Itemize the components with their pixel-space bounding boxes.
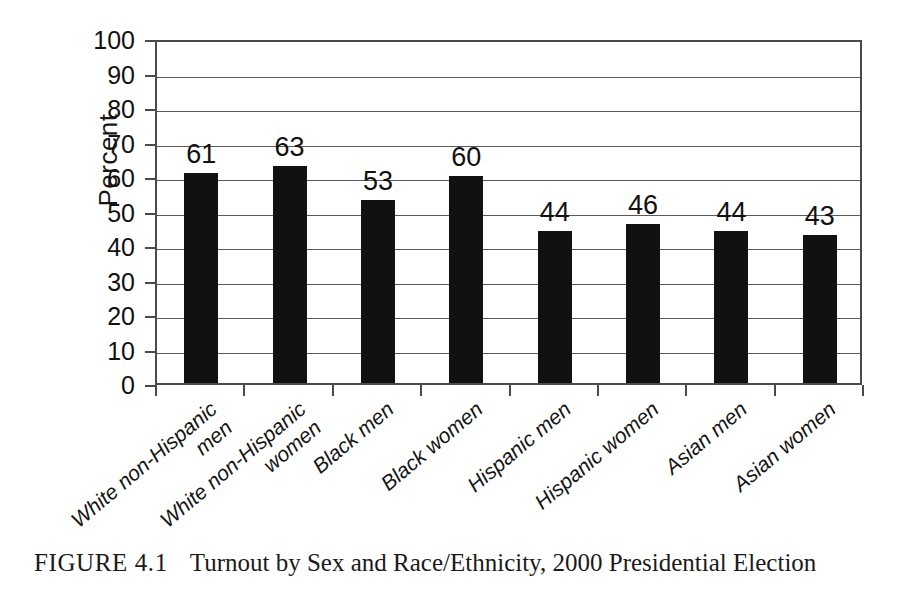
y-tick-mark [145, 385, 155, 387]
bar [184, 173, 218, 383]
bar-group: 44 [687, 42, 775, 383]
caption-text: Turnout by Sex and Race/Ethnicity, 2000 … [190, 549, 817, 576]
x-tick-mark [597, 385, 599, 396]
y-tick-label: 50 [75, 200, 135, 225]
y-tick-mark [145, 247, 155, 249]
y-tick-mark [145, 282, 155, 284]
bar-group: 63 [245, 42, 333, 383]
bar [626, 224, 660, 383]
y-tick-mark [145, 316, 155, 318]
y-tick-label: 10 [75, 338, 135, 363]
y-tick-mark [145, 213, 155, 215]
x-tick-mark [685, 385, 687, 396]
y-tick-mark [145, 351, 155, 353]
x-tick-mark [332, 385, 334, 396]
y-tick-mark [145, 75, 155, 77]
y-tick-label: 90 [75, 62, 135, 87]
bar [361, 200, 395, 383]
y-tick-label: 70 [75, 131, 135, 156]
bar-value-label: 44 [716, 199, 746, 226]
bar-value-label: 43 [805, 203, 835, 230]
x-axis-label: Asian men [661, 397, 753, 479]
bar-group: 44 [511, 42, 599, 383]
bar-group: 46 [599, 42, 687, 383]
bar-value-label: 53 [363, 168, 393, 195]
x-axis-label-line: Asian men [661, 397, 752, 478]
y-tick-label: 40 [75, 235, 135, 260]
bar [273, 166, 307, 383]
bar-value-label: 60 [451, 144, 481, 171]
x-tick-mark [420, 385, 422, 396]
bar-value-label: 44 [540, 199, 570, 226]
y-tick-label: 20 [75, 304, 135, 329]
bar-value-label: 63 [275, 134, 305, 161]
bar-group: 60 [422, 42, 510, 383]
bar [803, 235, 837, 383]
bar [714, 231, 748, 383]
figure-caption: FIGURE 4.1Turnout by Sex and Race/Ethnic… [34, 549, 874, 577]
y-tick-label: 30 [75, 269, 135, 294]
y-tick-mark [145, 109, 155, 111]
bar [449, 176, 483, 383]
y-tick-label: 0 [75, 373, 135, 398]
x-tick-mark [509, 385, 511, 396]
plot-area: 6163536044464443 [155, 40, 862, 385]
bar-group: 61 [157, 42, 245, 383]
caption-label: FIGURE 4.1 [34, 549, 168, 576]
x-tick-mark [243, 385, 245, 396]
y-tick-label: 100 [75, 28, 135, 53]
y-tick-label: 80 [75, 97, 135, 122]
x-tick-mark [774, 385, 776, 396]
bar-group: 43 [776, 42, 864, 383]
bar-value-label: 46 [628, 192, 658, 219]
bar [538, 231, 572, 383]
y-tick-label: 60 [75, 166, 135, 191]
bar-group: 53 [334, 42, 422, 383]
figure-container: Percent 0102030405060708090100 616353604… [0, 0, 903, 591]
bar-value-label: 61 [186, 141, 216, 168]
x-tick-mark [862, 385, 864, 396]
y-tick-mark [145, 178, 155, 180]
y-tick-mark [145, 144, 155, 146]
y-tick-mark [145, 40, 155, 42]
x-tick-mark [155, 385, 157, 396]
y-axis-title: Percent [93, 60, 133, 260]
